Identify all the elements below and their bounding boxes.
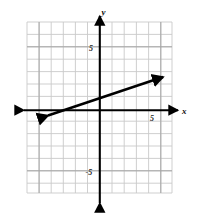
- coordinate-plane-svg: y x 5 -5 5: [0, 0, 199, 217]
- y-axis-label: y: [101, 7, 107, 17]
- y-tick-label-negative-5: -5: [86, 168, 93, 177]
- x-tick-label-5: 5: [150, 114, 154, 123]
- coordinate-plane-figure: y x 5 -5 5: [0, 0, 199, 217]
- x-axis-label: x: [181, 106, 187, 116]
- y-tick-label-5: 5: [89, 44, 93, 53]
